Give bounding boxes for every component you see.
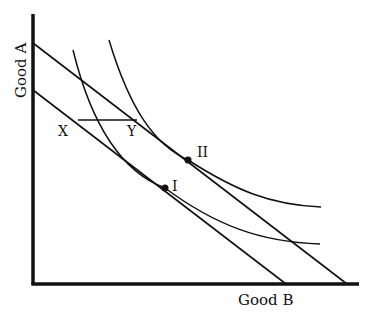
budget-line-upper xyxy=(33,43,347,284)
segment-label-y: Y xyxy=(126,123,137,139)
budget-line-lower xyxy=(33,90,286,284)
segment-label-x: X xyxy=(58,123,68,139)
tangency-point-i xyxy=(162,185,169,192)
y-axis-label: Good A xyxy=(12,43,30,98)
tangency-point-ii xyxy=(185,157,192,164)
point-label-ii: II xyxy=(197,144,208,160)
x-axis-label: Good B xyxy=(238,291,293,309)
point-label-i: I xyxy=(172,178,178,194)
indifference-diagram: Good A Good B X Y I II xyxy=(0,0,371,317)
